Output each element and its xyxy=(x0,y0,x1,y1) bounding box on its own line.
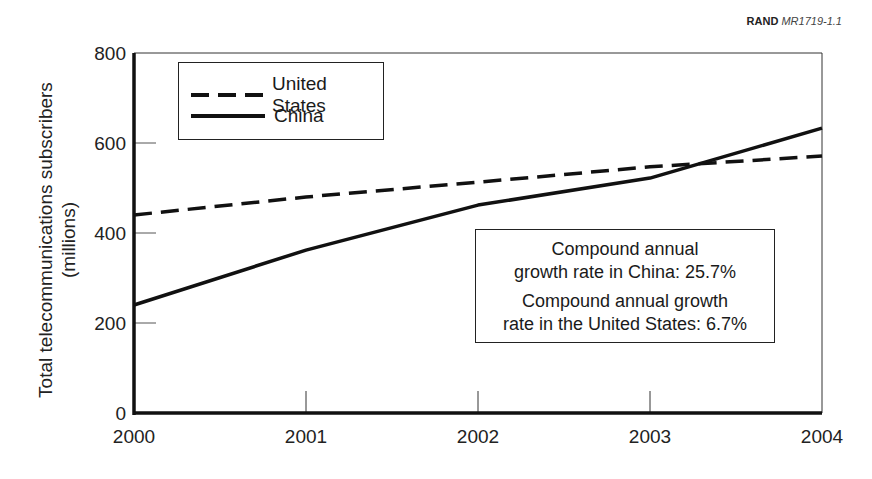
solid-line-icon xyxy=(191,113,265,119)
x-tick-label: 2004 xyxy=(801,426,844,447)
x-tick-label: 2002 xyxy=(457,426,499,447)
y-tick-label: 600 xyxy=(94,133,126,154)
x-tick-label: 2000 xyxy=(113,426,155,447)
us-growth-note: Compound annual growth rate in the Unite… xyxy=(476,290,774,336)
y-axis-title: Total telecommunications subscribers(mil… xyxy=(35,82,79,398)
legend-item-china: China xyxy=(191,105,324,127)
svg-text:Total telecommunications subsc: Total telecommunications subscribers xyxy=(35,82,56,398)
x-tick-label: 2003 xyxy=(629,426,671,447)
china-growth-note: Compound annual growth rate in China: 25… xyxy=(476,238,774,284)
growth-rate-annotation: Compound annual growth rate in China: 25… xyxy=(475,229,775,343)
legend-label: China xyxy=(274,105,324,127)
y-tick-label: 800 xyxy=(94,43,126,64)
legend: United States China xyxy=(178,62,384,140)
svg-text:(millions): (millions) xyxy=(58,202,79,278)
y-tick-label: 200 xyxy=(94,313,126,334)
x-tick-label: 2001 xyxy=(285,426,327,447)
dashed-line-icon xyxy=(191,92,263,98)
y-tick-label: 0 xyxy=(115,403,126,424)
y-tick-label: 400 xyxy=(94,223,126,244)
